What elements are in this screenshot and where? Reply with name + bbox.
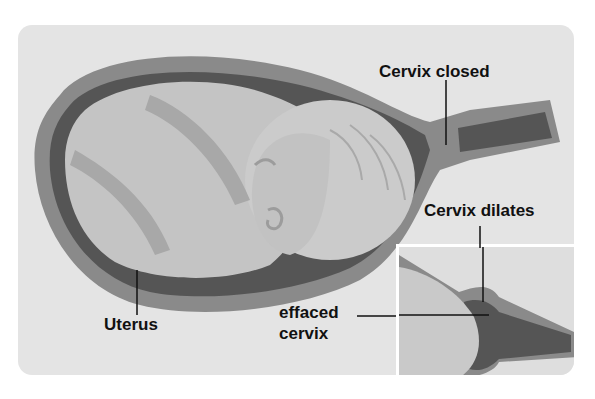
label-cervix-closed: Cervix closed <box>379 62 490 82</box>
label-effaced-cervix-line1: effaced <box>279 303 339 323</box>
label-effaced-cervix-line2: cervix <box>279 324 328 344</box>
label-cervix-dilates: Cervix dilates <box>424 201 535 221</box>
label-uterus: Uterus <box>104 315 158 335</box>
